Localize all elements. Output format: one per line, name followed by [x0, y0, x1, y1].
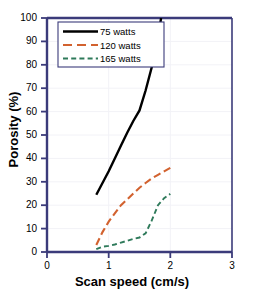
x-axis-title: Scan speed (cm/s) [0, 274, 264, 289]
x-tick-label-3: 3 [222, 260, 242, 271]
y-tick-label-100: 100 [11, 12, 37, 23]
x-tick-label-0: 0 [37, 260, 57, 271]
y-tick-label-80: 80 [11, 59, 37, 70]
y-tick-label-20: 20 [11, 199, 37, 210]
x-tick-label-2: 2 [160, 260, 180, 271]
y-tick-label-0: 0 [11, 246, 37, 257]
y-tick-label-90: 90 [11, 35, 37, 46]
legend-label-75-watts: 75 watts [100, 26, 135, 37]
chart-figure: 75 watts 120 watts 165 watts 100 90 80 7… [0, 0, 264, 295]
legend-label-120-watts: 120 watts [100, 40, 141, 51]
y-axis-title: Porosity (%) [6, 70, 21, 190]
y-tick-label-10: 10 [11, 223, 37, 234]
legend-label-165-watts: 165 watts [100, 53, 141, 64]
x-tick-label-1: 1 [99, 260, 119, 271]
